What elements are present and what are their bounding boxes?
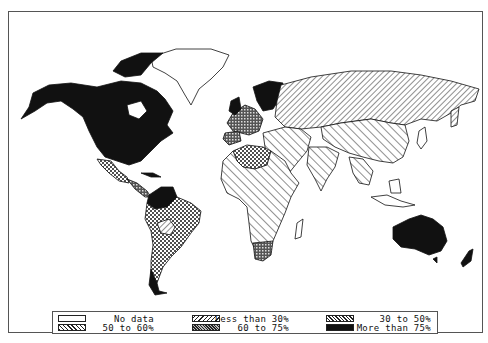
legend-swatch-30-50 (326, 315, 354, 322)
legend: No data 50 to 60% Less than 30% 60 to 75… (52, 311, 438, 334)
region-south-africa (253, 241, 273, 261)
legend-swatch-no-data (58, 315, 86, 322)
region-north-america (21, 81, 173, 165)
region-iberia (223, 131, 241, 145)
region-australia (393, 215, 447, 255)
legend-label-50-60: 50 to 60% (103, 324, 154, 333)
region-new-zealand (461, 249, 473, 267)
legend-swatch-more-75 (326, 324, 354, 331)
region-central-america (127, 179, 151, 197)
legend-swatch-50-60 (58, 324, 86, 331)
region-south-america (145, 197, 201, 283)
region-madagascar (295, 219, 303, 239)
legend-label-60-75: 60 to 75% (238, 324, 289, 333)
legend-label-more-75: More than 75% (357, 324, 431, 333)
legend-swatch-60-75 (192, 324, 220, 331)
region-indonesia (371, 195, 415, 207)
world-map (9, 12, 484, 312)
region-southeast-asia (349, 157, 373, 185)
continents (21, 49, 479, 295)
region-japan (417, 127, 427, 149)
map-frame: No data 50 to 60% Less than 30% 60 to 75… (8, 11, 483, 333)
region-india (307, 147, 339, 191)
